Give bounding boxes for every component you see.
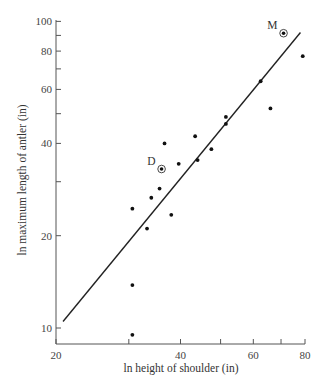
data-point	[145, 227, 149, 231]
data-point	[193, 134, 197, 138]
x-tick-label: 80	[300, 349, 312, 361]
point-label-m: M	[267, 19, 277, 31]
x-axis-label: ln height of shoulder (in)	[124, 362, 239, 375]
data-point	[130, 333, 134, 337]
data-point	[224, 122, 228, 126]
y-tick-label: 100	[36, 15, 53, 27]
data-point	[301, 54, 305, 58]
regression-line	[63, 32, 300, 321]
y-tick-label: 20	[41, 230, 53, 242]
fit-line	[63, 32, 300, 321]
y-tick-label: 10	[41, 322, 53, 334]
y-tick-label: 40	[41, 137, 53, 149]
data-point	[169, 213, 173, 217]
x-tick-label: 60	[248, 349, 260, 361]
data-point	[130, 207, 134, 211]
data-point	[209, 147, 213, 151]
data-point	[282, 31, 286, 35]
data-point	[177, 162, 181, 166]
data-point	[160, 167, 164, 171]
y-tick-label: 80	[41, 45, 53, 57]
scatter-chart: 1020406080100 20406080 DM ln height of s…	[0, 0, 322, 383]
x-tick-label: 40	[175, 349, 187, 361]
data-point	[158, 187, 162, 191]
data-point	[149, 196, 153, 200]
data-point	[196, 158, 200, 162]
data-points: DM	[130, 19, 304, 337]
y-axis: 1020406080100	[36, 15, 62, 344]
y-axis-label: ln maximum length of antler (in)	[16, 104, 29, 255]
data-point	[163, 142, 167, 146]
data-point	[259, 79, 263, 83]
x-axis: 20406080	[51, 339, 312, 361]
data-point	[269, 107, 273, 111]
point-label-d: D	[147, 155, 155, 167]
y-tick-label: 60	[41, 83, 53, 95]
x-tick-label: 20	[51, 349, 63, 361]
data-point	[130, 283, 134, 287]
data-point	[224, 115, 228, 119]
